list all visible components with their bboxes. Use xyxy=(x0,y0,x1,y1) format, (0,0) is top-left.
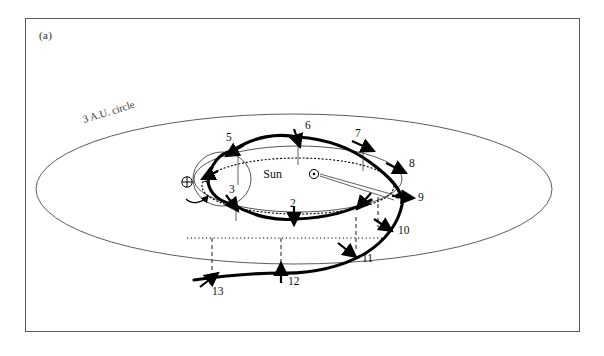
sun-symbol-dot xyxy=(313,173,316,176)
waypoint-label-5: 5 xyxy=(226,131,232,143)
waypoint-label-11: 11 xyxy=(362,252,373,264)
waypoint-label-13: 13 xyxy=(212,285,224,297)
waypoint-tick-10 xyxy=(374,219,392,231)
waypoint-label-6: 6 xyxy=(305,119,311,131)
figure-root: (a) 3 A.U. circle xyxy=(0,0,604,356)
figure-frame: (a) 3 A.U. circle xyxy=(25,18,580,332)
waypoint-label-12: 12 xyxy=(288,275,300,287)
waypoint-tick-9 xyxy=(392,196,414,198)
au-circle-label: 3 A.U. circle xyxy=(81,99,136,125)
earth-motion-arrow xyxy=(186,196,208,203)
waypoint-label-7: 7 xyxy=(355,127,361,139)
waypoint-markers xyxy=(200,129,414,287)
waypoint-label-9: 9 xyxy=(418,191,424,203)
waypoint-tick-8 xyxy=(386,163,406,173)
waypoint-label-10: 10 xyxy=(398,224,410,236)
sun-radial-line-2 xyxy=(320,176,394,200)
waypoint-label-8: 8 xyxy=(409,157,415,169)
spiral-trajectory-diagram: 3 A.U. circle Sun xyxy=(26,19,581,333)
waypoint-tick-11 xyxy=(338,243,356,257)
waypoint-label-1: 1 xyxy=(360,195,366,207)
near-earth-loop xyxy=(193,152,251,206)
waypoint-label-4: 4 xyxy=(204,174,210,186)
waypoint-label-2: 2 xyxy=(290,197,296,209)
sun-label: Sun xyxy=(263,167,282,181)
waypoint-label-3: 3 xyxy=(229,183,235,195)
